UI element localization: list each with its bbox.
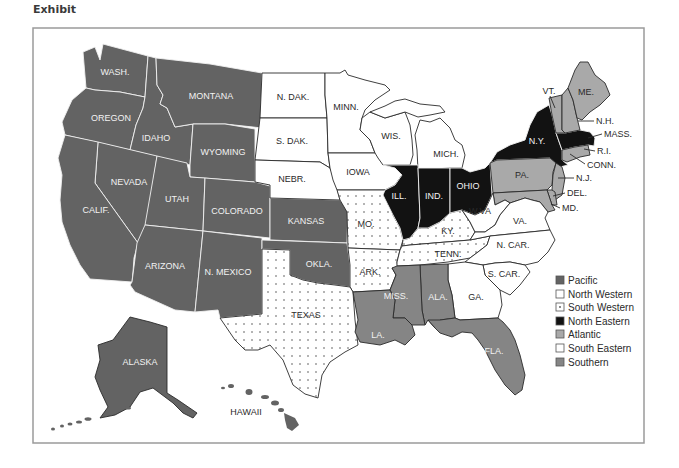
- label-tenn: TENN.: [435, 249, 462, 259]
- label-calif: CALIF.: [82, 205, 109, 215]
- state-alaska: [95, 317, 197, 418]
- label-va: VA.: [513, 216, 527, 226]
- label-md: MD.: [562, 203, 579, 213]
- label-colorado: COLORADO: [211, 206, 263, 216]
- label-kansas: KANSAS: [288, 216, 325, 226]
- label-me: ME.: [578, 87, 594, 97]
- legend-label: South Western: [568, 302, 634, 313]
- legend-item-south-eastern: South Eastern: [556, 343, 631, 354]
- legend-label: Southern: [568, 357, 609, 368]
- legend-swatch-atlantic: [556, 330, 564, 338]
- label-del: DEL.: [567, 188, 587, 198]
- label-ala: ALA.: [428, 292, 448, 302]
- label-mich: MICH.: [433, 149, 459, 159]
- legend-swatch-south-eastern: [556, 344, 564, 352]
- label-s-car: S. CAR.: [488, 269, 521, 279]
- label-n-mexico: N. MEXICO: [204, 267, 251, 277]
- label-la: LA.: [371, 330, 385, 340]
- label-utah: UTAH: [165, 194, 189, 204]
- legend-item-pacific: Pacific: [556, 275, 597, 286]
- label-mo: MO.: [358, 219, 375, 229]
- legend-swatch-southern: [556, 358, 564, 366]
- label-wva: W.VA: [469, 206, 491, 216]
- legend-swatch-pacific: [556, 276, 564, 284]
- label-nebr: NEBR.: [278, 174, 306, 184]
- label-ind: IND.: [425, 191, 443, 201]
- state-mich-upper: [370, 99, 445, 118]
- label-iowa: IOWA: [346, 167, 370, 177]
- legend-label: North Western: [568, 289, 632, 300]
- label-wash: WASH.: [100, 67, 129, 77]
- label-idaho: IDAHO: [142, 133, 171, 143]
- state-fla: [428, 318, 525, 395]
- legend-swatch-north-eastern: [556, 317, 564, 325]
- dot-pattern-icon: [559, 306, 561, 308]
- label-vt: VT.: [542, 86, 555, 96]
- label-ohio: OHIO: [456, 181, 479, 191]
- label-ri: R.I.: [597, 146, 611, 156]
- label-arizona: ARIZONA: [145, 261, 185, 271]
- label-okla: OKLA.: [306, 259, 333, 269]
- label-n-car: N. CAR.: [496, 240, 529, 250]
- label-ga: GA.: [468, 292, 484, 302]
- legend-item-southern: Southern: [556, 357, 609, 368]
- legend-swatch-north-western: [556, 290, 564, 298]
- label-fla: FLA.: [484, 346, 503, 356]
- us-regions-map: WASH. OREGON MONTANA IDAHO WYOMING NEVAD…: [0, 0, 679, 468]
- label-oregon: OREGON: [91, 113, 131, 123]
- label-mass: MASS.: [604, 129, 632, 139]
- label-s-dak: S. DAK.: [276, 136, 308, 146]
- label-ky: KY.: [441, 226, 454, 236]
- legend-item-north-eastern: North Eastern: [556, 316, 630, 327]
- legend-label: Atlantic: [568, 329, 601, 340]
- legend-label: Pacific: [568, 275, 597, 286]
- label-n-dak: N. DAK.: [277, 92, 310, 102]
- legend-item-atlantic: Atlantic: [556, 329, 601, 340]
- legend-label: South Eastern: [568, 343, 631, 354]
- label-nj: N.J.: [576, 173, 592, 183]
- label-hawaii: HAWAII: [230, 407, 261, 417]
- label-ill: ILL.: [391, 191, 406, 201]
- label-texas: TEXAS: [291, 310, 321, 320]
- legend-item-south-western: South Western: [556, 302, 634, 313]
- label-ark: ARK.: [359, 267, 380, 277]
- label-conn: CONN.: [587, 160, 616, 170]
- label-nevada: NEVADA: [111, 177, 147, 187]
- label-miss: MISS.: [384, 291, 409, 301]
- label-wis: WIS.: [381, 131, 401, 141]
- state-mich: [415, 118, 465, 170]
- legend: Pacific North Western South Western Nort…: [556, 275, 634, 368]
- legend-label: North Eastern: [568, 316, 630, 327]
- label-pa: PA.: [515, 170, 529, 180]
- label-nh: N.H.: [596, 116, 614, 126]
- label-ny: N.Y.: [529, 136, 545, 146]
- label-minn: MINN.: [333, 102, 359, 112]
- legend-item-north-western: North Western: [556, 289, 632, 300]
- label-wyoming: WYOMING: [201, 147, 246, 157]
- label-montana: MONTANA: [189, 91, 233, 101]
- label-alaska: ALASKA: [122, 357, 157, 367]
